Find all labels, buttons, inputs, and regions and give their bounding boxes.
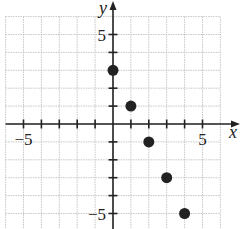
y-axis-label: y (97, 0, 107, 18)
scatter-chart: −555−5 x y (0, 0, 241, 229)
data-point (125, 101, 136, 112)
x-tick-label: 5 (198, 130, 207, 149)
y-tick-label: 5 (98, 26, 107, 45)
data-point (143, 136, 154, 147)
y-tick-label: −5 (88, 205, 106, 224)
x-axis-label: x (228, 122, 237, 142)
x-tick-label: −5 (14, 130, 32, 149)
data-point (179, 208, 190, 219)
data-point (161, 172, 172, 183)
axes (6, 1, 240, 229)
data-point (108, 65, 119, 76)
y-axis-arrow (110, 1, 117, 10)
